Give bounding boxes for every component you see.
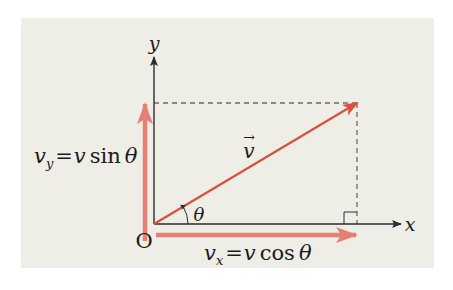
vy-rhs-func: sin bbox=[90, 144, 121, 168]
vx-lhs-base: v bbox=[204, 241, 216, 265]
vy-lhs-base: v bbox=[34, 144, 46, 168]
origin-label: O bbox=[135, 229, 152, 253]
vy-rhs-var: v bbox=[74, 144, 86, 168]
vector-diagram: y x O → v θ vy=vsinθ vx=vcosθ bbox=[0, 0, 453, 290]
vector-v-label: v bbox=[243, 139, 255, 163]
vy-equation: vy=vsinθ bbox=[34, 144, 138, 171]
vx-rhs-func: cos bbox=[260, 241, 295, 265]
y-axis-label: y bbox=[148, 32, 160, 54]
vy-lhs-sub: y bbox=[45, 156, 54, 171]
angle-arc bbox=[183, 207, 188, 224]
right-angle-marker bbox=[344, 212, 357, 224]
vx-rhs-var: v bbox=[244, 241, 256, 265]
angle-theta-label: θ bbox=[194, 204, 205, 225]
vx-rhs-angle: θ bbox=[299, 241, 312, 265]
vx-lhs-sub: x bbox=[216, 253, 224, 268]
vy-equals: = bbox=[55, 144, 73, 168]
vy-rhs-angle: θ bbox=[125, 144, 138, 168]
vx-equals: = bbox=[225, 241, 243, 265]
x-axis-label: x bbox=[405, 213, 416, 235]
vx-equation: vx=vcosθ bbox=[204, 241, 312, 268]
